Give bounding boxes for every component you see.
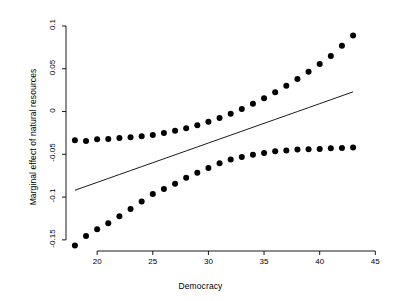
marginal-effects-chart: Marginal effect of natural resources Dem… [0,0,401,301]
data-point [194,122,200,128]
x-tick-label: 25 [140,257,166,266]
series-dotted-dots [72,32,356,144]
data-point [183,125,189,131]
data-point [306,146,312,152]
data-point [161,186,167,192]
data-point [328,53,334,59]
data-point [161,130,167,136]
data-point [350,32,356,38]
data-point [228,156,234,162]
y-tick-label: 0.05 [48,50,57,84]
data-point [228,111,234,117]
data-point [283,147,289,153]
data-point [83,138,89,144]
data-point [94,226,100,232]
fit-line [75,92,353,190]
data-point [116,213,122,219]
x-tick-label: 20 [84,257,110,266]
data-point [317,61,323,67]
x-tick-label: 30 [195,257,221,266]
data-point [217,160,223,166]
x-tick-label: 35 [251,257,277,266]
data-point [183,175,189,181]
data-point [94,136,100,142]
data-point [261,150,267,156]
y-tick-label: -0.15 [48,221,57,255]
data-point [339,43,345,49]
data-point [272,89,278,95]
data-point [139,133,145,139]
data-point [72,137,78,143]
data-point [72,242,78,248]
data-point [128,134,134,140]
y-tick-label: 0.1 [48,7,57,41]
data-point [283,83,289,89]
data-point [172,128,178,134]
data-point [328,145,334,151]
y-tick-label: 0 [48,93,57,127]
y-axis-title: Marginal effect of natural resources [28,42,38,232]
data-point [83,233,89,239]
data-point [205,165,211,171]
data-point [339,145,345,151]
data-point [306,69,312,75]
data-point [239,106,245,112]
data-point [294,147,300,153]
data-point [294,76,300,82]
x-tick-label: 40 [307,257,333,266]
data-point [116,135,122,141]
data-point [205,119,211,125]
y-tick-label: -0.05 [48,136,57,170]
data-point [105,136,111,142]
x-axis-title: Democracy [0,281,401,291]
data-point [261,95,267,101]
data-point [272,148,278,154]
data-point [217,115,223,121]
data-point [105,220,111,226]
data-point [250,152,256,158]
plot-canvas [0,0,401,301]
data-point [350,144,356,150]
series-dotted-dots [72,144,356,248]
x-tick-label: 45 [362,257,388,266]
data-point [172,181,178,187]
data-point [239,154,245,160]
data-point [194,170,200,176]
data-point [250,101,256,107]
y-tick-label: -0.1 [48,179,57,213]
series-group [72,32,356,248]
data-point [139,198,145,204]
data-point [150,191,156,197]
data-point [317,146,323,152]
data-point [150,132,156,138]
data-point [128,206,134,212]
